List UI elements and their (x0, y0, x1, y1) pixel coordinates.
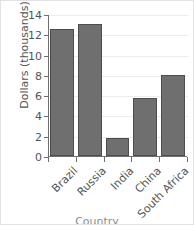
x-tick-mark (104, 157, 105, 162)
bar-chart-figure: Dollars (thousands) 02468101214 Country … (0, 0, 194, 225)
bar-south-africa (161, 75, 185, 156)
bar-brazil (50, 29, 74, 156)
y-tick-label: 2 (35, 131, 42, 142)
y-tick-mark (44, 137, 48, 138)
y-tick-label: 14 (28, 10, 42, 21)
x-axis-line (48, 156, 187, 157)
y-tick-mark (44, 116, 48, 117)
y-tick-label: 6 (35, 91, 42, 102)
x-tick-mark (159, 157, 160, 162)
y-tick-mark (44, 76, 48, 77)
gridline (48, 15, 188, 16)
y-axis-line (48, 15, 49, 157)
y-tick-label: 10 (28, 50, 42, 61)
y-tick-label: 4 (35, 111, 42, 122)
x-tick-mark (76, 157, 77, 162)
y-tick-label: 8 (35, 70, 42, 81)
y-tick-label: 0 (35, 152, 42, 163)
bar-china (133, 98, 157, 156)
y-tick-mark (44, 15, 48, 16)
bar-russia (78, 24, 102, 156)
y-tick-mark (44, 56, 48, 57)
y-tick-mark (44, 35, 48, 36)
plot-area: 02468101214 (48, 15, 187, 157)
x-tick-label-india: India (108, 165, 135, 192)
x-tick-mark (187, 157, 188, 162)
y-tick-mark (44, 96, 48, 97)
plot-inner (48, 15, 187, 157)
x-tick-mark (131, 157, 132, 162)
y-tick-label: 12 (28, 30, 42, 41)
bar-india (106, 138, 130, 156)
x-tick-mark (48, 157, 49, 162)
x-tick-label-russia: Russia (75, 165, 108, 198)
x-axis-title: Country (1, 215, 193, 225)
